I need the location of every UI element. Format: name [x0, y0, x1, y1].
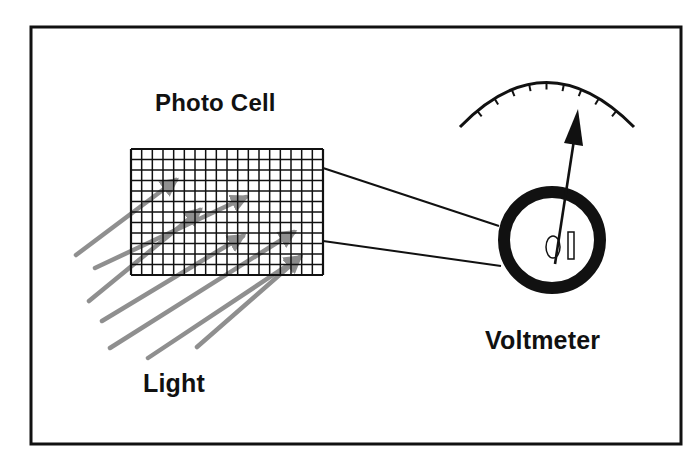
scale-tick	[529, 84, 530, 91]
diagram-canvas: Photo Cell Voltmeter Light	[0, 0, 698, 461]
voltmeter-label: Voltmeter	[485, 326, 600, 355]
voltmeter-dial	[504, 192, 600, 288]
diagram-svg	[0, 0, 698, 461]
light-label: Light	[143, 369, 205, 398]
scale-tick	[563, 84, 564, 91]
photo-cell-label: Photo Cell	[155, 89, 276, 117]
dial-ring	[504, 192, 600, 288]
terminal-bar-icon	[568, 232, 574, 259]
